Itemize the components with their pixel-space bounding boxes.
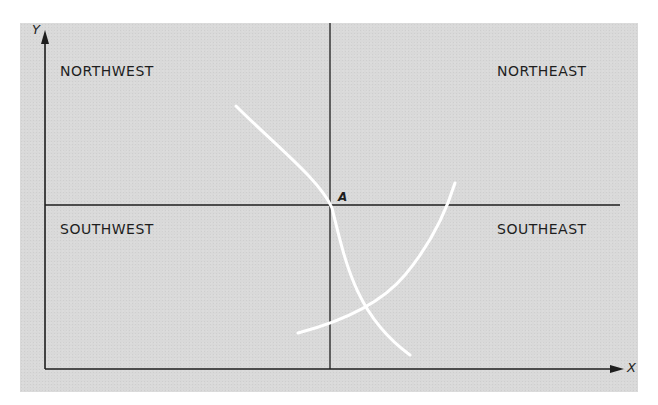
quadrant-diagram — [0, 0, 658, 405]
y-axis-label: Y — [32, 22, 40, 37]
x-axis-arrow-icon — [610, 365, 624, 373]
x-axis-label: X — [627, 360, 636, 375]
x-axis — [45, 365, 624, 373]
quadrant-label-southeast: SOUTHEAST — [497, 221, 587, 237]
y-axis — [41, 30, 49, 369]
y-axis-arrow-icon — [41, 30, 49, 44]
quadrant-label-northwest: NORTHWEST — [60, 63, 154, 79]
downward-curve — [236, 106, 410, 355]
quadrant-label-southwest: SOUTHWEST — [60, 221, 154, 237]
quadrant-label-northeast: NORTHEAST — [497, 63, 587, 79]
point-a-label: A — [338, 190, 347, 204]
